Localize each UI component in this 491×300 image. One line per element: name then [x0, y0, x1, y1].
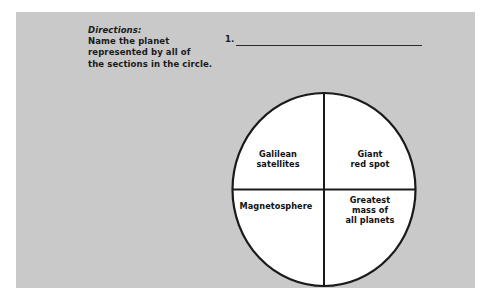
quadrant-tr-line-2: red spot: [327, 159, 413, 169]
directions-line-3: the sections in the circle.: [88, 59, 228, 70]
directions-line-2: represented by all of: [88, 47, 228, 58]
quadrant-label-bottom-left: Magnetosphere: [229, 201, 323, 211]
quadrant-br-line-3: all planets: [327, 215, 413, 225]
quadrant-tl-line-2: satellites: [235, 159, 321, 169]
quadrant-tl-line-1: Galilean: [235, 149, 321, 159]
directions-line-1: Name the planet: [88, 36, 228, 47]
quadrant-br-line-2: mass of: [327, 205, 413, 215]
answer-row: 1.: [225, 34, 425, 50]
quadrant-label-top-right: Giant red spot: [327, 149, 413, 169]
quadrant-label-bottom-right: Greatest mass of all planets: [327, 195, 413, 226]
quadrant-bl-line-1: Magnetosphere: [229, 201, 323, 211]
quadrant-tr-line-1: Giant: [327, 149, 413, 159]
question-number: 1.: [225, 34, 234, 44]
circle-graphic: [231, 91, 417, 288]
gray-content-panel: Directions: Name the planet represented …: [16, 12, 475, 288]
directions-title: Directions:: [88, 25, 228, 36]
quadrant-label-top-left: Galilean satellites: [235, 149, 321, 169]
quadrant-br-line-1: Greatest: [327, 195, 413, 205]
answer-blank-line[interactable]: [236, 45, 422, 46]
directions-text: Name the planet represented by all of th…: [88, 36, 228, 70]
worksheet-page: Directions: Name the planet represented …: [0, 0, 491, 300]
quartered-circle-diagram: Galilean satellites Giant red spot Magne…: [231, 91, 417, 288]
directions-block: Directions: Name the planet represented …: [88, 25, 228, 70]
